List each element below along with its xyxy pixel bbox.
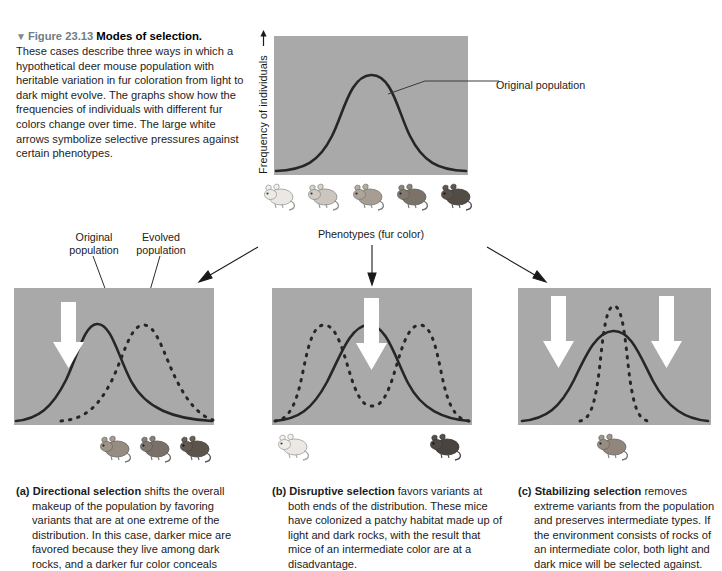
pressure-arrow-c-right (651, 296, 682, 368)
figure-caption-block: ▼Figure 23.13 Modes of selection. These … (16, 29, 244, 161)
caption-b-term: Disruptive selection (289, 485, 394, 497)
top-graph-panel (274, 36, 468, 175)
label-evolved-population: Evolved population (130, 231, 192, 256)
panel-c-curves (518, 288, 711, 425)
mouse-icon-a3 (178, 434, 216, 464)
callout-label-original-population: Original population (496, 79, 585, 91)
callout-leader-line-original (387, 72, 499, 96)
label-original-population-line2: population (69, 244, 118, 256)
figure-caption-text: These cases describe three ways in which… (16, 44, 244, 161)
panel-a-curves (14, 288, 214, 425)
label-evolved-population-line1: Evolved (142, 231, 180, 243)
mouse-icon-1 (262, 182, 300, 212)
panel-b-curves (272, 288, 472, 425)
y-axis-label-text: Frequency of individuals (257, 55, 269, 174)
figure-title: Modes of selection. (96, 30, 202, 42)
top-graph-curve (274, 36, 468, 175)
mouse-icon-3 (351, 182, 389, 212)
caption-b-letter: (b) (272, 485, 286, 497)
label-evolved-population-line2: population (136, 244, 185, 256)
y-axis-label: Frequency of individuals (243, 34, 263, 176)
caption-c-term: Stabilizing selection (535, 485, 642, 497)
y-axis-arrow-icon (259, 30, 268, 46)
mouse-icon-a1 (98, 434, 136, 464)
figure-heading: ▼Figure 23.13 Modes of selection. (16, 29, 244, 44)
mouse-icon-a2 (138, 434, 176, 464)
mouse-icon-4 (395, 182, 433, 212)
label-original-population-line1: Original (76, 231, 113, 243)
figure-number: Figure 23.13 (28, 30, 93, 42)
caption-a-text: shifts the overall makeup of the populat… (32, 485, 231, 570)
figure-triangle-icon: ▼ (16, 31, 26, 42)
caption-a-letter: (a) (16, 485, 30, 497)
panel-b-mice-row (276, 432, 466, 462)
mouse-icon-b1 (276, 432, 314, 462)
panel-b-disruptive-graph (272, 288, 472, 425)
x-axis-label: Phenotypes (fur color) (274, 228, 468, 240)
pressure-arrow-a (53, 302, 84, 368)
caption-c-text: removes extreme variants from the popula… (534, 485, 714, 570)
pressure-arrow-c-left (543, 296, 574, 368)
caption-c-letter: (c) (518, 485, 532, 497)
top-mice-row (262, 182, 477, 212)
caption-panel-c: (c) Stabilizing selection removes extrem… (518, 484, 722, 571)
caption-panel-a: (a) Directional selection shifts the ove… (16, 484, 248, 571)
caption-a-term: Directional selection (33, 485, 142, 497)
mouse-icon-b2 (428, 432, 466, 462)
panel-c-mice-row (594, 432, 634, 462)
label-original-population: Original population (63, 231, 125, 256)
panel-a-directional-graph (14, 288, 214, 425)
caption-b-text: favors variants at both ends of the dist… (288, 485, 502, 570)
mouse-icon-2 (306, 182, 344, 212)
panel-a-mice-row (98, 434, 216, 464)
panel-c-stabilizing-graph (518, 288, 711, 425)
mouse-icon-c1 (595, 432, 633, 462)
caption-panel-b: (b) Disruptive selection favors variants… (272, 484, 504, 571)
mouse-icon-5 (439, 182, 477, 212)
